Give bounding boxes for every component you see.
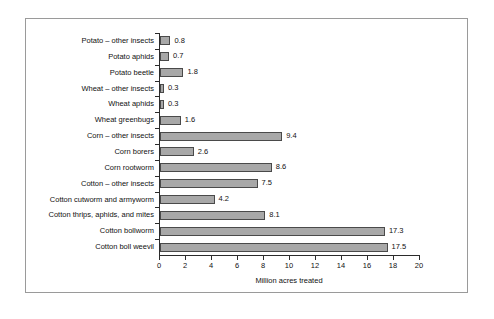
bar [160, 195, 215, 204]
x-axis-tick-mark [185, 256, 186, 260]
category-label: Potato beetle [110, 65, 154, 81]
bar-value-label: 0.3 [168, 80, 178, 96]
bar-row: Wheat – other insects0.3 [159, 81, 419, 97]
x-axis-tick-label: 14 [337, 261, 345, 270]
category-tick-mark [155, 49, 159, 50]
bar-row: Potato aphids0.7 [159, 49, 419, 65]
bar [160, 68, 183, 77]
bar [160, 84, 164, 93]
bar-value-label: 0.7 [173, 48, 183, 64]
bar-value-label: 4.2 [219, 191, 229, 207]
bar-value-label: 7.5 [262, 175, 272, 191]
x-axis-tick-mark [159, 256, 160, 260]
bar-row: Cotton cutworm and armyworm4.2 [159, 192, 419, 208]
x-axis-tick-mark [211, 256, 212, 260]
category-label: Wheat aphids [108, 96, 154, 112]
x-axis-tick-label: 10 [285, 261, 293, 270]
x-axis-tick-mark [393, 256, 394, 260]
x-axis-title: Million acres treated [159, 276, 419, 285]
bar-value-label: 8.1 [269, 207, 279, 223]
category-tick-mark [155, 96, 159, 97]
category-tick-mark [155, 223, 159, 224]
bar-value-label: 1.8 [187, 64, 197, 80]
bar [160, 36, 170, 45]
category-label: Cotton – other insects [81, 176, 154, 192]
bar-row: Corn – other insects9.4 [159, 128, 419, 144]
bar-row: Wheat greenbugs1.6 [159, 112, 419, 128]
category-tick-mark [155, 81, 159, 82]
x-axis-tick-mark [289, 256, 290, 260]
category-tick-mark [155, 192, 159, 193]
category-tick-mark [155, 33, 159, 34]
x-axis-tick-label: 0 [157, 261, 161, 270]
x-axis-tick-mark [367, 256, 368, 260]
category-label: Corn – other insects [87, 128, 154, 144]
bar-value-label: 2.6 [198, 144, 208, 160]
bar-row: Corn rootworm8.6 [159, 160, 419, 176]
bar-row: Corn borers2.6 [159, 144, 419, 160]
bar [160, 211, 265, 220]
category-tick-mark [155, 207, 159, 208]
bar-value-label: 1.6 [185, 112, 195, 128]
x-axis-tick-label: 8 [261, 261, 265, 270]
category-label: Corn borers [114, 144, 154, 160]
bar-row: Cotton – other insects7.5 [159, 176, 419, 192]
x-axis-tick-label: 2 [183, 261, 187, 270]
bar-row: Potato – other insects0.8 [159, 33, 419, 49]
category-tick-mark [155, 239, 159, 240]
x-axis-tick-mark [315, 256, 316, 260]
bar [160, 116, 181, 125]
x-axis-tick-mark [341, 256, 342, 260]
bar-value-label: 17.3 [389, 223, 404, 239]
category-label: Cotton boll weevil [95, 239, 154, 255]
bar-row: Cotton boll weevil17.5 [159, 239, 419, 255]
bar [160, 52, 169, 61]
x-axis-tick-mark [237, 256, 238, 260]
category-tick-mark [155, 160, 159, 161]
bar [160, 100, 164, 109]
category-label: Wheat – other insects [81, 81, 154, 97]
bar-row: Wheat aphids0.3 [159, 96, 419, 112]
category-tick-mark [155, 176, 159, 177]
category-tick-mark [155, 144, 159, 145]
bar [160, 243, 388, 252]
category-tick-mark [155, 128, 159, 129]
bar [160, 132, 282, 141]
bar-chart-plot-area: Potato – other insects0.8Potato aphids0.… [159, 33, 419, 255]
category-label: Potato – other insects [81, 33, 154, 49]
x-axis-tick-mark [419, 256, 420, 260]
category-label: Potato aphids [108, 49, 154, 65]
chart-figure-frame: Potato – other insects0.8Potato aphids0.… [25, 18, 468, 293]
bar-row: Cotton thrips, aphids, and mites8.1 [159, 207, 419, 223]
bar [160, 227, 385, 236]
bar-row: Cotton bollworm17.3 [159, 223, 419, 239]
category-tick-mark [155, 112, 159, 113]
x-axis-tick-label: 20 [415, 261, 423, 270]
category-label: Cotton cutworm and armyworm [50, 192, 154, 208]
bar-value-label: 9.4 [286, 128, 296, 144]
category-label: Corn rootworm [104, 160, 154, 176]
category-label: Wheat greenbugs [95, 112, 154, 128]
bar-value-label: 0.3 [168, 96, 178, 112]
bar-value-label: 0.8 [174, 33, 184, 49]
bar [160, 179, 258, 188]
x-axis-tick-label: 16 [363, 261, 371, 270]
category-label: Cotton bollworm [100, 223, 154, 239]
category-label: Cotton thrips, aphids, and mites [49, 207, 154, 223]
bar [160, 147, 194, 156]
bar-value-label: 8.6 [276, 159, 286, 175]
x-axis-tick-label: 4 [209, 261, 213, 270]
x-axis-tick-label: 12 [311, 261, 319, 270]
bar-value-label: 17.5 [392, 239, 407, 255]
x-axis-tick-label: 6 [235, 261, 239, 270]
x-axis-tick-label: 18 [389, 261, 397, 270]
bar [160, 163, 272, 172]
bar-row: Potato beetle1.8 [159, 65, 419, 81]
x-axis-tick-mark [263, 256, 264, 260]
category-tick-mark [155, 65, 159, 66]
